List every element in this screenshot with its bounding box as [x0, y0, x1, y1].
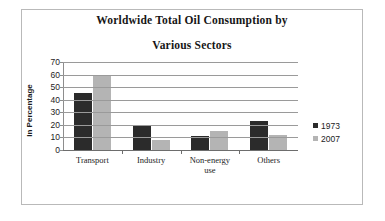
x-axis-tick-mark — [181, 150, 182, 154]
x-axis-tick-mark — [239, 150, 240, 154]
x-axis-category-label: Transport — [63, 155, 122, 165]
gridline — [63, 125, 298, 126]
y-axis-tick-mark — [60, 62, 63, 63]
y-axis-tick-mark — [60, 75, 63, 76]
gridline — [63, 62, 298, 63]
y-axis-tick-label: 70 — [26, 58, 60, 66]
y-axis-tick-mark — [60, 137, 63, 138]
plot-area — [63, 62, 298, 151]
bar-2007-industry — [152, 140, 170, 150]
x-axis-category-label: Non-energyuse — [181, 155, 240, 175]
legend-swatch-2007 — [313, 136, 318, 141]
y-axis-tick-mark — [60, 87, 63, 88]
bar-2007-non-energy-use — [210, 131, 228, 150]
chart-title-line-2: Various Sectors — [30, 39, 354, 52]
gridline — [63, 100, 298, 101]
y-axis-tick-labels: 706050403020100 — [26, 62, 60, 151]
gridline — [63, 75, 298, 76]
gridline — [63, 137, 298, 138]
y-axis-tick-mark — [60, 125, 63, 126]
x-axis-category-label: Others — [239, 155, 298, 165]
y-axis-tick-label: 60 — [26, 71, 60, 79]
legend-item-2007: 2007 — [313, 132, 357, 145]
chart-title-line-1: Worldwide Total Oil Consumption by — [30, 14, 354, 27]
x-axis-category-label-line: Industry — [122, 155, 181, 165]
gridline — [63, 112, 298, 113]
y-axis-tick-label: 10 — [26, 133, 60, 141]
y-axis-tick-mark — [60, 150, 63, 151]
x-axis-category-labels: TransportIndustryNon-energyuseOthers — [63, 155, 298, 189]
gridline — [63, 87, 298, 88]
y-axis-tick-mark — [60, 112, 63, 113]
x-axis-category-label-line: use — [181, 165, 240, 175]
x-axis-category-label-line: Others — [239, 155, 298, 165]
y-axis-tick-label: 0 — [26, 146, 60, 154]
legend-label-1973: 1973 — [321, 121, 340, 131]
bar-1973-transport — [74, 93, 92, 150]
x-axis-category-label-line: Transport — [63, 155, 122, 165]
y-axis-tick-label: 50 — [26, 83, 60, 91]
y-axis-tick-label: 40 — [26, 96, 60, 104]
legend-swatch-1973 — [313, 123, 318, 128]
chart-screenshot: Worldwide Total Oil Consumption by Vario… — [0, 0, 385, 221]
y-axis-tick-label: 30 — [26, 108, 60, 116]
x-axis-tick-mark — [122, 150, 123, 154]
x-axis-category-label-line: Non-energy — [181, 155, 240, 165]
x-axis-category-label: Industry — [122, 155, 181, 165]
y-axis-tick-label: 20 — [26, 121, 60, 129]
legend-item-1973: 1973 — [313, 119, 357, 132]
chart-legend: 19732007 — [313, 119, 357, 145]
legend-label-2007: 2007 — [321, 134, 340, 144]
y-axis-tick-mark — [60, 100, 63, 101]
